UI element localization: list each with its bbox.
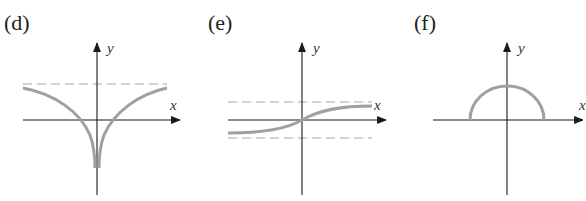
graph-f [433,43,583,195]
graph-d [23,43,180,195]
graph-e [228,43,386,195]
curve-d [23,88,167,168]
